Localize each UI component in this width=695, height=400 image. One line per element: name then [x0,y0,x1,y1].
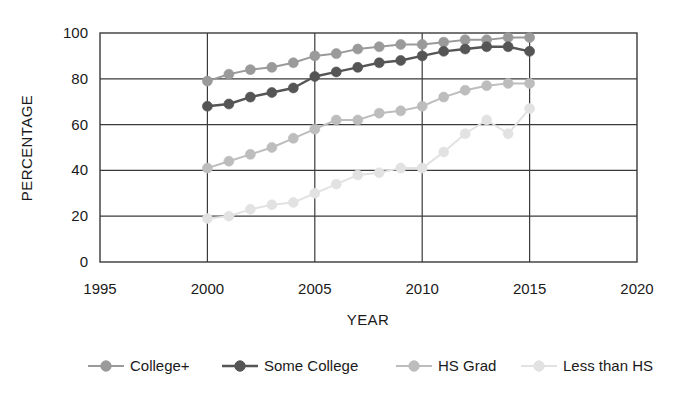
data-point-marker [353,44,363,54]
data-point-marker [439,46,449,56]
data-point-marker [331,179,341,189]
data-point-marker [503,42,513,52]
x-axis-tick-label: 2020 [620,280,653,297]
legend-item[interactable]: Less than HS [521,357,653,374]
data-point-marker [267,200,277,210]
legend-item-label: Less than HS [563,357,653,374]
data-point-marker [310,51,320,61]
y-axis-tick-label: 0 [80,253,88,270]
legend-swatch-marker [534,361,544,371]
data-point-marker [460,44,470,54]
data-point-marker [267,62,277,72]
data-point-marker [310,72,320,82]
data-point-marker [224,156,234,166]
y-axis-tick-label: 20 [71,207,88,224]
legend-item[interactable]: HS Grad [396,357,496,374]
legend-item-label: Some College [264,357,358,374]
data-point-marker [202,213,212,223]
data-point-marker [374,168,384,178]
data-point-marker [525,104,535,114]
data-point-marker [288,197,298,207]
data-point-marker [525,46,535,56]
data-point-marker [224,211,234,221]
y-axis-title: PERCENTAGE [18,95,35,201]
data-point-marker [288,133,298,143]
data-point-marker [310,124,320,134]
data-point-marker [396,55,406,65]
y-axis-tick-labels: 020406080100 [63,24,88,270]
data-point-marker [417,101,427,111]
data-point-marker [202,163,212,173]
data-point-marker [525,78,535,88]
data-point-marker [202,101,212,111]
data-series [202,33,534,87]
data-point-marker [460,129,470,139]
data-point-marker [460,85,470,95]
data-point-marker [331,115,341,125]
data-point-marker [267,88,277,98]
data-point-marker [503,78,513,88]
legend-swatch-marker [101,361,111,371]
data-point-marker [353,115,363,125]
x-axis-tick-label: 2015 [513,280,546,297]
data-series [202,42,534,112]
data-point-marker [288,83,298,93]
data-point-marker [439,92,449,102]
x-axis-tick-label: 2000 [191,280,224,297]
data-point-marker [482,42,492,52]
data-point-marker [245,204,255,214]
legend-item[interactable]: Some College [222,357,358,374]
data-point-marker [503,129,513,139]
data-point-marker [331,49,341,59]
data-point-marker [245,149,255,159]
data-point-marker [224,69,234,79]
data-point-marker [245,65,255,75]
y-axis-tick-label: 100 [63,24,88,41]
x-axis-tick-label: 1995 [83,280,116,297]
x-axis-title: YEAR [347,311,389,328]
data-point-marker [288,58,298,68]
data-point-marker [396,39,406,49]
data-point-marker [374,58,384,68]
data-point-marker [417,51,427,61]
data-point-marker [417,163,427,173]
data-point-marker [374,42,384,52]
data-point-marker [224,99,234,109]
legend-item[interactable]: College+ [88,357,190,374]
series-line [207,47,529,107]
series-line [207,38,529,82]
legend-swatch-marker [235,361,245,371]
data-point-marker [202,76,212,86]
data-point-marker [525,33,535,43]
chart-legend: College+Some CollegeHS GradLess than HS [88,357,653,374]
data-series-layer [202,33,534,224]
data-series [202,104,534,224]
data-point-marker [310,188,320,198]
plot-frame [100,33,637,262]
data-point-marker [267,143,277,153]
plot-area-border [100,33,637,262]
data-point-marker [353,170,363,180]
data-point-marker [439,37,449,47]
legend-swatch-marker [409,361,419,371]
legend-item-label: HS Grad [438,357,496,374]
data-point-marker [482,81,492,91]
y-axis-tick-label: 80 [71,70,88,87]
data-point-marker [245,92,255,102]
data-point-marker [396,163,406,173]
x-axis-tick-labels: 199520002005201020152020 [83,280,653,297]
line-chart: 020406080100 199520002005201020152020 Co… [0,0,695,400]
data-point-marker [417,39,427,49]
x-axis-tick-label: 2005 [298,280,331,297]
data-point-marker [374,108,384,118]
chart-container: 020406080100 199520002005201020152020 Co… [0,0,695,400]
legend-item-label: College+ [130,357,190,374]
data-point-marker [460,35,470,45]
grid-lines [100,33,637,262]
data-point-marker [353,62,363,72]
data-point-marker [331,67,341,77]
data-point-marker [482,115,492,125]
data-point-marker [503,33,513,43]
data-point-marker [439,147,449,157]
y-axis-tick-label: 60 [71,116,88,133]
